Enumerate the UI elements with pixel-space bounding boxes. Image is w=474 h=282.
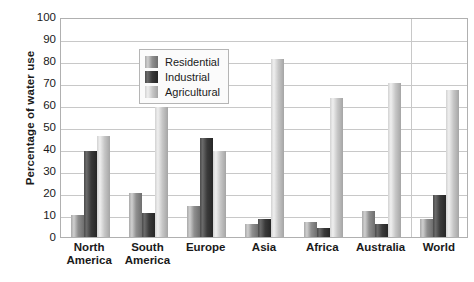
legend-swatch-industrial xyxy=(145,71,158,83)
y-axis-tick-label: 50 xyxy=(26,122,56,134)
chart-legend: ResidentialIndustrialAgricultural xyxy=(139,49,229,104)
bar-agricultural xyxy=(330,98,343,237)
x-axis-tick-label: SouthAmerica xyxy=(118,241,176,267)
x-axis-tick-label-line1: North xyxy=(74,241,105,253)
legend-item: Industrial xyxy=(145,69,220,84)
bar-agricultural xyxy=(155,107,168,237)
bar-group xyxy=(61,19,119,237)
bar-industrial xyxy=(142,213,155,237)
bar-industrial xyxy=(317,228,330,237)
y-axis-tick-label: 70 xyxy=(26,78,56,90)
y-axis-tick-label: 30 xyxy=(26,166,56,178)
x-axis-tick-label-line2: America xyxy=(60,254,118,267)
x-axis-tick-label-line2: America xyxy=(118,254,176,267)
y-axis-tick-label: 40 xyxy=(26,144,56,156)
x-axis-tick-label-line1: Australia xyxy=(356,241,405,253)
bar-residential xyxy=(304,222,317,237)
y-axis-tick-label: 10 xyxy=(26,210,56,222)
x-axis-tick-label-line1: South xyxy=(131,241,164,253)
bar-group xyxy=(411,19,469,237)
y-axis-tick-label: 20 xyxy=(26,188,56,200)
x-axis-tick-label: Europe xyxy=(177,241,235,254)
y-axis-tick-label: 100 xyxy=(26,12,56,24)
legend-item: Agricultural xyxy=(145,84,220,99)
bar-residential xyxy=(129,193,142,237)
y-axis-tick-labels: 1009080706050403020100 xyxy=(16,0,56,282)
legend-item: Residential xyxy=(145,54,220,69)
bar-group xyxy=(294,19,352,237)
legend-label: Industrial xyxy=(165,71,210,83)
legend-swatch-residential xyxy=(145,56,158,68)
bar-residential xyxy=(245,224,258,237)
y-axis-tick-label: 90 xyxy=(26,34,56,46)
bar-residential xyxy=(362,211,375,237)
legend-label: Agricultural xyxy=(165,86,220,98)
legend-swatch-agricultural xyxy=(145,86,158,98)
bar-residential xyxy=(71,215,84,237)
bar-residential xyxy=(187,206,200,237)
bar-agricultural xyxy=(97,136,110,237)
bar-residential xyxy=(420,219,433,237)
x-axis-tick-label: World xyxy=(410,241,468,254)
y-axis-tick-label: 80 xyxy=(26,56,56,68)
x-axis-tick-label-line1: Africa xyxy=(306,241,339,253)
bar-industrial xyxy=(375,224,388,237)
x-axis-tick-label-line1: Europe xyxy=(186,241,226,253)
x-axis-tick-label: Africa xyxy=(293,241,351,254)
x-axis-tick-label-line1: Asia xyxy=(252,241,276,253)
bar-group xyxy=(352,19,410,237)
bar-industrial xyxy=(200,138,213,237)
bar-agricultural xyxy=(213,151,226,237)
y-axis-tick-label: 60 xyxy=(26,100,56,112)
plot-area: ResidentialIndustrialAgricultural xyxy=(60,18,468,238)
x-axis-tick-label-line1: World xyxy=(423,241,455,253)
x-axis-tick-label: Asia xyxy=(235,241,293,254)
bar-chart: Percentage of water use 1009080706050403… xyxy=(0,0,474,282)
x-axis-tick-label: Australia xyxy=(351,241,409,254)
bar-agricultural xyxy=(446,90,459,237)
bar-industrial xyxy=(84,151,97,237)
bar-agricultural xyxy=(388,83,401,237)
bar-group xyxy=(236,19,294,237)
y-axis-tick-label: 0 xyxy=(26,232,56,244)
x-axis-tick-labels: NorthAmericaSouthAmericaEuropeAsiaAfrica… xyxy=(60,241,468,281)
legend-label: Residential xyxy=(165,56,219,68)
bar-industrial xyxy=(258,219,271,237)
x-axis-tick-label: NorthAmerica xyxy=(60,241,118,267)
bar-industrial xyxy=(433,195,446,237)
bar-agricultural xyxy=(271,59,284,237)
